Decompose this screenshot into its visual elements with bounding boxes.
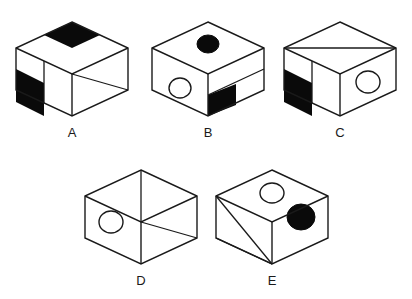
cube-e-label: E: [268, 273, 277, 288]
cube-b-top-solid-circle: [197, 35, 219, 53]
cube-b: B: [152, 22, 264, 140]
cube-b-left-open-circle: [169, 78, 191, 98]
cube-c-right-open-circle: [356, 71, 380, 93]
cube-a: A: [16, 22, 128, 140]
cube-puzzle-figure: A B C: [0, 0, 412, 299]
cube-d-label: D: [136, 273, 145, 288]
cube-d-left-open-circle: [99, 211, 123, 233]
cube-c-label: C: [335, 125, 344, 140]
cube-e-top-open-circle: [260, 183, 284, 203]
cube-e: E: [216, 170, 328, 288]
cube-a-label: A: [68, 125, 77, 140]
cube-d: D: [85, 170, 197, 288]
cube-b-label: B: [204, 125, 213, 140]
cube-c: C: [284, 22, 396, 140]
